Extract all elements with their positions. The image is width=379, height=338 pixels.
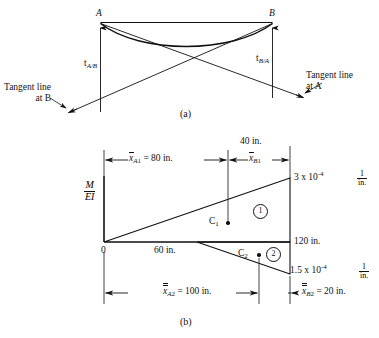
centroid-c2-subscript: 2	[244, 252, 248, 260]
top-value-exponent: -4	[318, 170, 324, 178]
tangent-at-b-arrow	[69, 109, 78, 113]
top-unit-numerator: 1	[357, 170, 367, 178]
tangent-b-line2: at	[36, 93, 43, 103]
tangent-a-point: A	[315, 81, 322, 91]
caption-panel-b: (b)	[180, 316, 192, 327]
xbar-a1-value: = 80 in.	[143, 153, 172, 163]
leader-tangent-b	[50, 98, 66, 108]
t-subscript-ab: A/B	[87, 62, 98, 70]
label-dim-60in: 60 in.	[154, 245, 176, 256]
label-xbar-a2: xA2 = 100 in.	[163, 286, 212, 298]
tangent-a-line2: at	[306, 81, 313, 91]
label-dim-120in: 120 in.	[294, 236, 320, 247]
caption-panel-a: (a)	[180, 108, 191, 119]
figure-root: A B tA/B tB/A Tangent line at B Tangent …	[0, 0, 379, 338]
label-point-b: B	[269, 8, 275, 19]
tangent-b-line1: Tangent line	[4, 82, 51, 92]
xbar-a2-value: = 100 in.	[177, 286, 211, 296]
label-centroid-c2: C2	[238, 248, 248, 260]
label-deviation-b-over-a: tB/A	[256, 53, 269, 65]
annotation-tangent-at-a: Tangent line at A	[306, 70, 353, 91]
bottom-value-mantissa: 1.5 x 10	[290, 265, 321, 275]
label-xbar-b2: xB2 = 20 in.	[302, 286, 346, 298]
xbar-a2-subscript-index: 2	[172, 290, 176, 298]
label-top-ordinate-unit: 1 in.	[357, 170, 367, 188]
label-deviation-a-over-b: tA/B	[84, 58, 97, 70]
xbar-b2-symbol: x	[302, 286, 306, 297]
label-point-a: A	[96, 8, 102, 19]
tangent-line-at-a	[101, 24, 303, 98]
annotation-tangent-at-b: Tangent line at B	[4, 82, 51, 103]
xbar-a2-symbol: x	[163, 286, 167, 297]
centroid-c1-marker	[226, 221, 230, 225]
label-xbar-b1: xB1	[249, 153, 261, 165]
label-dim-40in: 40 in.	[240, 136, 262, 147]
label-xbar-a1: xA1 = 80 in.	[129, 153, 173, 165]
bottom-value-exponent: -4	[321, 263, 327, 271]
centroid-c1-subscript: 1	[215, 220, 219, 228]
area-1-badge: 1	[253, 204, 268, 219]
panel-b-geometry	[104, 146, 296, 304]
label-m-over-ei: M EI	[84, 180, 95, 202]
tangent-a-line1: Tangent line	[306, 70, 353, 80]
bottom-unit-denominator: in.	[359, 271, 369, 280]
xbar-b1-subscript-index: 1	[258, 157, 262, 165]
label-bottom-ordinate-unit: 1 in.	[359, 263, 369, 281]
label-centroid-c1: C1	[209, 216, 219, 228]
label-origin-zero: 0	[101, 245, 106, 256]
xbar-b2-value: = 20 in.	[316, 286, 345, 296]
xbar-b1-symbol: x	[249, 153, 253, 164]
tangent-b-point: B	[45, 93, 51, 103]
xbar-b2-subscript-index: 2	[311, 290, 315, 298]
centroid-c2-marker	[257, 253, 261, 257]
label-top-ordinate-value: 3 x 10-4	[294, 171, 324, 182]
m-over-ei-denominator: EI	[84, 191, 95, 203]
m-over-ei-numerator: M	[84, 180, 95, 191]
label-bottom-ordinate-value: 1.5 x 10-4	[290, 264, 327, 275]
xbar-a1-symbol: x	[129, 153, 133, 164]
top-value-mantissa: 3 x 10	[294, 172, 318, 182]
t-subscript-ba: B/A	[259, 57, 270, 65]
xbar-a1-subscript-index: 1	[138, 157, 142, 165]
tangent-at-a-arrow	[296, 95, 304, 98]
top-unit-denominator: in.	[357, 178, 367, 187]
bottom-unit-numerator: 1	[359, 263, 369, 271]
area-2-badge: 2	[266, 247, 281, 262]
